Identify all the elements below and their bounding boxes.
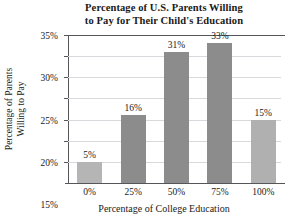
bar: 15% <box>251 120 276 183</box>
y-axis-tick: 10% <box>64 141 68 142</box>
bar-value-label: 33% <box>211 31 228 41</box>
plot-area: 5%10%15%20%25%30%35% 5%16%31%33%15% 0%25… <box>68 35 285 183</box>
x-axis-tick-label: 75% <box>211 187 228 197</box>
y-axis-tick: 25% <box>64 77 68 78</box>
bar: 5% <box>77 162 102 183</box>
y-axis-tick-label: 20% <box>41 158 58 168</box>
x-axis-tick-label: 0% <box>83 187 96 197</box>
y-axis-title-line-1: Percentage of Parents <box>4 68 16 150</box>
bar: 16% <box>121 115 146 183</box>
y-axis-tick: 20% <box>64 98 68 99</box>
chart-title: Percentage of U.S. Parents Willing to Pa… <box>40 2 288 27</box>
y-axis-tick-label: 30% <box>41 73 58 83</box>
y-axis-tick: 5% <box>64 162 68 163</box>
bar: 33% <box>207 43 232 183</box>
x-axis-tick-label: 100% <box>252 187 274 197</box>
x-axis-tick-label: 50% <box>168 187 185 197</box>
bar: 31% <box>164 52 189 183</box>
bar-value-label: 31% <box>168 40 185 50</box>
bar-value-label: 5% <box>83 150 96 160</box>
x-axis-line <box>65 183 285 184</box>
bar-value-label: 16% <box>124 103 141 113</box>
y-axis-tick-label: 25% <box>41 116 58 126</box>
bar-value-label: 15% <box>255 108 272 118</box>
x-axis-tick-label: 25% <box>124 187 141 197</box>
bar-chart: Percentage of U.S. Parents Willing to Pa… <box>0 0 293 220</box>
y-axis-tick: 30% <box>64 56 68 57</box>
x-axis-title: Percentage of College Education <box>40 203 288 214</box>
y-axis-title: Percentage of Parents Willing to Pay <box>0 35 30 183</box>
y-axis-title-line-2: Willing to Pay <box>15 68 27 150</box>
y-axis-tick: 15% <box>64 120 68 121</box>
y-axis-tick: 35% <box>64 35 68 36</box>
chart-title-line-2: to Pay for Their Child's Education <box>40 15 288 28</box>
y-axis-tick-label: 35% <box>41 31 58 41</box>
chart-title-line-1: Percentage of U.S. Parents Willing <box>40 2 288 15</box>
